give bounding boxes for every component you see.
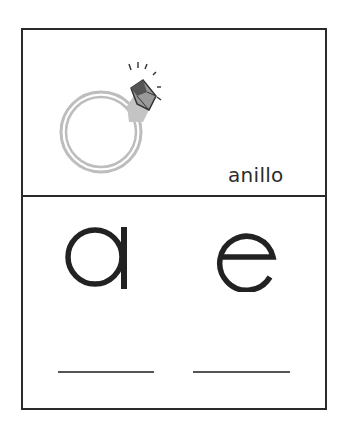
letter-e: e bbox=[213, 222, 283, 292]
ring-icon bbox=[57, 56, 167, 181]
flashcard: anillo a e bbox=[21, 28, 327, 410]
divider bbox=[23, 195, 325, 197]
picture-label: anillo bbox=[228, 163, 284, 187]
letter-a: a bbox=[64, 222, 134, 292]
answer-line-1[interactable] bbox=[58, 371, 154, 373]
answer-line-2[interactable] bbox=[193, 371, 290, 373]
